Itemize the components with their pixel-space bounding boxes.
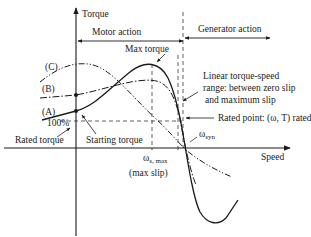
generator-action-label: Generator action — [198, 24, 262, 34]
max-torque-pointer — [157, 54, 165, 62]
linear-range-label-line2: range: between zero slip — [203, 83, 296, 93]
torque-speed-diagram: Torque Speed Motor action Generator acti… — [0, 0, 311, 237]
omega-syn-pointer — [190, 137, 197, 142]
linear-range-label-line1: Linear torque-speed — [203, 71, 279, 81]
omega-syn-label: ωsyn — [199, 129, 215, 141]
starting-torque-pointer — [82, 115, 96, 134]
max-slip-label: (max slip) — [129, 168, 168, 179]
curve-a-label: (A) — [42, 107, 55, 118]
curve-a-start-point — [74, 109, 78, 113]
rated-point-label: Rated point: (ω, T) rated — [218, 113, 311, 124]
starting-torque-label: Starting torque — [86, 135, 143, 145]
rated-torque-label: Rated torque — [15, 135, 64, 145]
speed-axis-label: Speed — [261, 152, 284, 162]
curve-b-label: (B) — [42, 84, 55, 95]
linear-range-label-line3: and maximum slip — [205, 95, 276, 105]
curve-b-start-point — [74, 93, 78, 97]
linear-range-pointer — [183, 92, 198, 101]
hundred-percent-label: 100% — [47, 118, 69, 128]
motor-action-label: Motor action — [92, 27, 142, 37]
omega-smax-label: ωs, max — [143, 153, 168, 165]
max-torque-label: Max torque — [125, 44, 169, 54]
curve-c-label: (C) — [45, 62, 58, 73]
torque-axis-label: Torque — [82, 9, 109, 19]
